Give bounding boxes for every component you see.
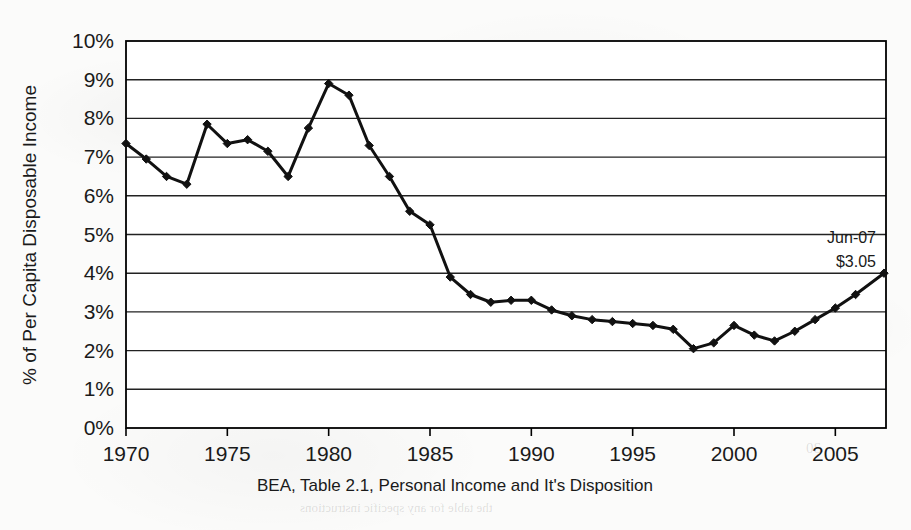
annotation-value-label: $3.05 <box>836 253 876 270</box>
y-tick-label: 2% <box>84 339 114 362</box>
x-tick-label: 1995 <box>609 442 656 465</box>
y-tick-label: 5% <box>84 223 114 246</box>
x-tick-label: 2000 <box>711 442 758 465</box>
x-axis-tick-labels: 19701975198019851990199520002005 <box>103 442 859 465</box>
x-tick-label: 1990 <box>508 442 555 465</box>
line-chart: 10%9%8%7%6%5%4%3%2%1%0% 1970197519801985… <box>0 0 911 530</box>
y-axis-title: % of Per Capita Disposable Income <box>19 85 40 385</box>
chart-caption: BEA, Table 2.1, Personal Income and It's… <box>257 476 653 495</box>
x-tick-label: 2005 <box>812 442 859 465</box>
annotation-date-label: Jun-07 <box>827 229 876 246</box>
x-tick-label: 1970 <box>103 442 150 465</box>
y-tick-label: 1% <box>84 377 114 400</box>
y-tick-label: 10% <box>72 29 114 52</box>
y-tick-label: 8% <box>84 106 114 129</box>
y-tick-label: 6% <box>84 184 114 207</box>
y-axis-tick-labels: 10%9%8%7%6%5%4%3%2%1%0% <box>72 29 114 439</box>
y-tick-label: 9% <box>84 68 114 91</box>
y-tick-label: 3% <box>84 300 114 323</box>
y-tick-label: 4% <box>84 261 114 284</box>
y-tick-label: 7% <box>84 145 114 168</box>
x-tick-label: 1975 <box>204 442 251 465</box>
x-tick-label: 1980 <box>305 442 352 465</box>
x-tick-label: 1985 <box>407 442 454 465</box>
chart-page: Sample Line the table for any specific i… <box>0 0 911 530</box>
x-axis-ticks <box>126 428 835 436</box>
y-tick-label: 0% <box>84 416 114 439</box>
